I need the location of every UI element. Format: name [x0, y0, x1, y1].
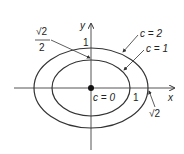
pointer-c2 [123, 35, 138, 52]
label-sqrt2-over-2-den: 2 [39, 42, 45, 53]
label-c1: c = 1 [146, 43, 168, 54]
pointer-sqrt2 [149, 91, 155, 107]
level-curves-diagram: x y c = 0 1 1 √2 2 c = 2 c = 1 √2 [0, 0, 184, 154]
label-sqrt2-over-2-num: √2 [36, 26, 47, 37]
pointer-c1 [124, 50, 144, 70]
label-c0: c = 0 [93, 92, 115, 103]
y-axis-label: y [79, 20, 86, 31]
label-y-1: 1 [83, 37, 89, 48]
origin-point-c0 [88, 85, 94, 91]
label-c2: c = 2 [140, 28, 162, 39]
label-sqrt2: √2 [149, 108, 160, 119]
label-x-1: 1 [133, 92, 139, 103]
x-axis-label: x [167, 92, 174, 103]
